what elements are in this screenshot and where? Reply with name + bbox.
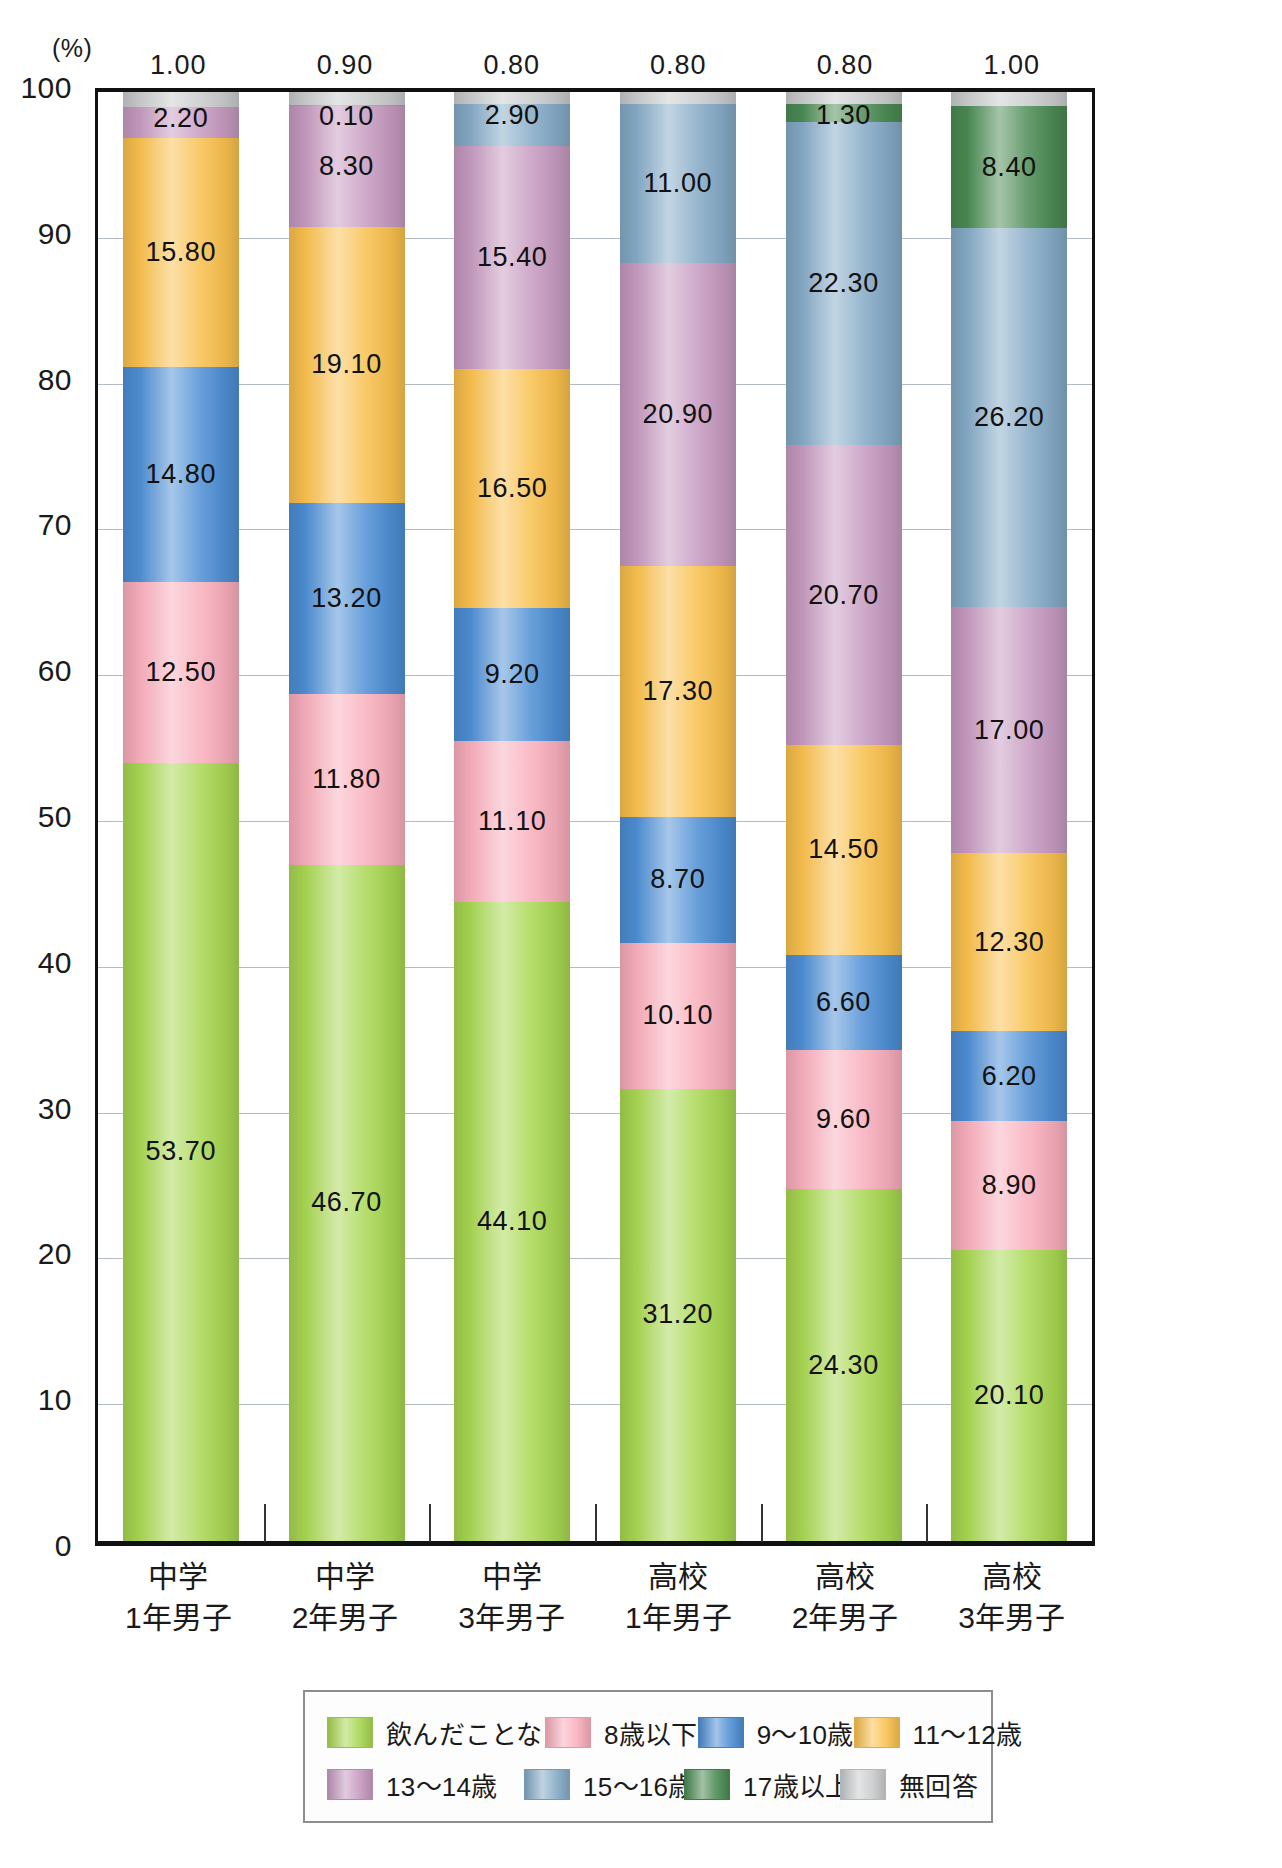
stacked-bar[interactable]: 46.7011.8013.2019.108.300.10	[289, 92, 405, 1541]
bar-segment-value-label: 12.30	[974, 929, 1045, 956]
stacked-bar[interactable]: 20.108.906.2012.3017.0026.208.40	[951, 92, 1067, 1541]
top-total-value: 1.00	[928, 50, 1095, 84]
bar-segment[interactable]: 9.20	[454, 608, 570, 741]
x-axis-category-label: 高校1年男子	[595, 1556, 762, 1676]
stacked-bar[interactable]: 24.309.606.6014.5020.7022.301.30	[786, 92, 902, 1541]
bar-segment[interactable]: 8.70	[620, 817, 736, 943]
plot-area: 53.7012.5014.8015.802.2046.7011.8013.201…	[95, 88, 1095, 1546]
bar-segment-value-label: 20.70	[808, 582, 879, 609]
legend-label: 17歳以上	[743, 1766, 851, 1803]
bar-segment[interactable]: 6.20	[951, 1031, 1067, 1121]
bar-segment[interactable]: 6.60	[786, 955, 902, 1051]
legend-swatch-15-16	[524, 1769, 570, 1800]
y-axis-tick-labels: 1009080706050403020100	[0, 88, 88, 1546]
bar-segment[interactable]: 20.90	[620, 263, 736, 566]
y-axis-tick-label: 40	[38, 946, 72, 980]
bar-segment[interactable]	[951, 92, 1067, 106]
bar-segment[interactable]: 20.10	[951, 1250, 1067, 1541]
bar-segment[interactable]: 8.40	[951, 106, 1067, 228]
bar-segment[interactable]: 9.60	[786, 1050, 902, 1189]
legend-swatch-no-answer	[840, 1769, 886, 1800]
y-axis-tick-label: 70	[38, 508, 72, 542]
x-axis-category-label: 中学2年男子	[262, 1556, 429, 1676]
bar-segment[interactable]: 14.50	[786, 745, 902, 955]
bar-segment-value-label: 8.30	[319, 153, 374, 180]
legend-item[interactable]: 無回答	[840, 1758, 981, 1810]
bar-segment-value-label: 53.70	[146, 1138, 217, 1165]
x-axis-tick	[595, 1504, 597, 1542]
x-axis-category-line: 2年男子	[262, 1597, 429, 1638]
bar-segment[interactable]: 26.20	[951, 228, 1067, 607]
legend-row: 飲んだことない8歳以下9〜10歳11〜12歳	[327, 1706, 981, 1758]
stacked-bar[interactable]: 53.7012.5014.8015.802.20	[123, 92, 239, 1541]
bar-segment[interactable]: 0.10	[289, 105, 405, 106]
bar-segment-value-label: 10.10	[643, 1002, 714, 1029]
bar-segment[interactable]: 22.30	[786, 122, 902, 445]
bar-segment[interactable]: 11.00	[620, 104, 736, 263]
bar-segment-value-label: 8.70	[650, 866, 705, 893]
bar-segment[interactable]: 44.10	[454, 902, 570, 1541]
bar-segment[interactable]: 1.30	[786, 104, 902, 123]
y-axis-tick-label: 60	[38, 654, 72, 688]
bar-slot: 20.108.906.2012.3017.0026.208.40	[926, 92, 1092, 1541]
legend-item[interactable]: 15〜16歳	[524, 1758, 684, 1810]
x-axis-tick	[429, 1504, 431, 1542]
bar-segment[interactable]: 24.30	[786, 1189, 902, 1541]
bar-segment[interactable]: 46.70	[289, 865, 405, 1541]
stacked-bar[interactable]: 44.1011.109.2016.5015.402.90	[454, 92, 570, 1541]
bar-segment[interactable]: 20.70	[786, 445, 902, 745]
bar-segment[interactable]	[620, 92, 736, 104]
bar-segment[interactable]: 31.20	[620, 1089, 736, 1541]
bar-segment-value-label: 22.30	[808, 270, 879, 297]
legend-item[interactable]: 17歳以上	[684, 1758, 840, 1810]
bar-segment[interactable]: 2.20	[123, 107, 239, 139]
bar-segment[interactable]: 8.90	[951, 1121, 1067, 1250]
bar-segment[interactable]: 15.80	[123, 138, 239, 367]
bar-segment[interactable]: 14.80	[123, 367, 239, 581]
bar-segment-value-label: 6.60	[816, 989, 871, 1016]
chart-legend: 飲んだことない8歳以下9〜10歳11〜12歳13〜14歳15〜16歳17歳以上無…	[303, 1690, 993, 1823]
bar-segment[interactable]: 12.50	[123, 582, 239, 763]
bar-segment-value-label: 15.80	[146, 239, 217, 266]
bar-segment[interactable]: 15.40	[454, 146, 570, 369]
bar-segment[interactable]: 2.90	[454, 104, 570, 146]
bar-segment-value-label: 9.60	[816, 1106, 871, 1133]
bar-group-container: 53.7012.5014.8015.802.2046.7011.8013.201…	[98, 92, 1092, 1541]
bar-segment[interactable]: 17.00	[951, 607, 1067, 853]
bar-segment[interactable]: 19.10	[289, 227, 405, 503]
y-axis-tick-label: 90	[38, 217, 72, 251]
y-axis-tick-label: 80	[38, 363, 72, 397]
top-total-value: 0.80	[595, 50, 762, 84]
top-value-row: 1.000.900.800.800.801.00	[95, 50, 1095, 84]
x-axis-category-line: 3年男子	[428, 1597, 595, 1638]
top-total-value: 0.80	[762, 50, 929, 84]
bar-segment[interactable]: 10.10	[620, 943, 736, 1089]
bar-segment-value-label: 1.30	[816, 102, 871, 129]
bar-segment[interactable]: 12.30	[951, 853, 1067, 1031]
bar-segment[interactable]: 11.10	[454, 741, 570, 902]
legend-item[interactable]: 11〜12歳	[854, 1706, 1010, 1758]
bar-slot: 31.2010.108.7017.3020.9011.00	[595, 92, 761, 1541]
y-axis-tick-label: 30	[38, 1092, 72, 1126]
bar-segment[interactable]: 11.80	[289, 694, 405, 865]
stacked-bar[interactable]: 31.2010.108.7017.3020.9011.00	[620, 92, 736, 1541]
bar-segment-value-label: 11.10	[478, 808, 547, 835]
y-axis-tick-label: 0	[55, 1529, 72, 1563]
bar-segment[interactable]: 16.50	[454, 369, 570, 608]
legend-item[interactable]: 飲んだことない	[327, 1706, 545, 1758]
legend-item[interactable]: 8歳以下	[545, 1706, 698, 1758]
legend-label: 13〜14歳	[386, 1766, 498, 1803]
x-axis-category-line: 中学	[262, 1556, 429, 1597]
x-axis-category-line: 1年男子	[95, 1597, 262, 1638]
x-axis-category-line: 2年男子	[762, 1597, 929, 1638]
legend-item[interactable]: 9〜10歳	[698, 1706, 854, 1758]
bar-segment[interactable]: 13.20	[289, 503, 405, 694]
x-axis-tick	[761, 1504, 763, 1542]
bar-segment[interactable]: 53.70	[123, 763, 239, 1541]
legend-item[interactable]: 13〜14歳	[327, 1758, 524, 1810]
bar-segment-value-label: 14.50	[808, 836, 879, 863]
bar-segment[interactable]: 17.30	[620, 566, 736, 817]
bar-segment-value-label: 2.90	[485, 102, 540, 129]
bar-segment-value-label: 17.00	[974, 717, 1045, 744]
top-total-value: 0.90	[262, 50, 429, 84]
